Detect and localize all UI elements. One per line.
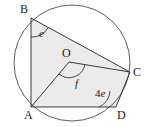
- angle-label-4e: 4e: [95, 88, 105, 99]
- point-label-c: C: [133, 66, 141, 78]
- geometry-figure: B A C D O e f 4e: [0, 0, 150, 127]
- point-label-a: A: [24, 109, 33, 121]
- point-label-o: O: [62, 47, 71, 59]
- angle-label-e: e: [39, 28, 44, 39]
- angle-label-f: f: [75, 78, 78, 89]
- angle-4e-variable: e: [101, 87, 106, 99]
- geometry-canvas: [0, 0, 150, 127]
- point-label-b: B: [20, 3, 28, 15]
- point-label-d: D: [117, 109, 126, 121]
